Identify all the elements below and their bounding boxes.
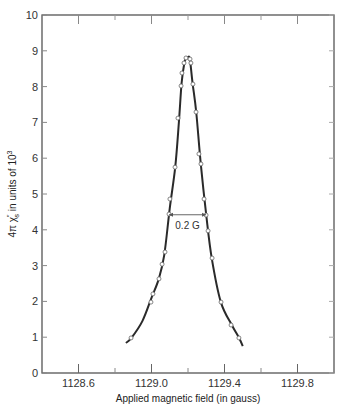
data-point	[149, 300, 153, 304]
data-point	[229, 323, 233, 327]
axes	[42, 15, 334, 373]
y-ticks: 012345678910	[26, 9, 334, 379]
data-point	[189, 61, 193, 65]
data-point	[202, 197, 206, 201]
data-point	[237, 336, 241, 340]
data-point	[129, 336, 133, 340]
y-axis-label-prefix: 4π χ	[7, 216, 18, 237]
x-tick-label: 1129.4	[208, 377, 241, 389]
y-tick-label: 10	[26, 9, 38, 21]
data-point	[157, 277, 161, 281]
data-point	[176, 116, 180, 120]
x-tick-label: 1129.8	[281, 377, 314, 389]
data-point	[219, 300, 223, 304]
resonance-curve	[126, 57, 243, 347]
y-tick-label: 5	[32, 188, 38, 200]
data-point	[173, 165, 177, 169]
data-point	[191, 82, 195, 86]
y-tick-label: 8	[32, 81, 38, 93]
data-point	[163, 250, 167, 254]
data-point	[199, 162, 203, 166]
data-point	[188, 57, 192, 61]
y-axis-label: 4π χ″s in units of 103	[6, 150, 20, 237]
data-point	[206, 229, 210, 233]
y-tick-label: 3	[32, 260, 38, 272]
y-axis-label-suffix: in units of 10	[7, 154, 18, 214]
y-tick-label: 6	[32, 152, 38, 164]
data-point	[210, 256, 214, 260]
y-tick-label: 4	[32, 224, 38, 236]
data-point	[184, 56, 188, 60]
y-tick-label: 1	[32, 331, 38, 343]
data-point	[182, 61, 186, 65]
data-point	[179, 84, 183, 88]
x-tick-label: 1128.6	[62, 377, 95, 389]
resonance-chart: 1128.61129.01129.41129.8 012345678910 0.…	[0, 0, 345, 410]
points-layer	[129, 56, 241, 340]
x-ticks: 1128.61129.01129.41129.8	[62, 15, 314, 389]
x-axis-label: Applied magnetic field (in gauss)	[116, 393, 261, 404]
curve-layer	[126, 57, 243, 347]
data-point	[180, 71, 184, 75]
data-point	[151, 292, 155, 296]
x-tick-label: 1129.0	[135, 377, 168, 389]
y-tick-label: 0	[32, 367, 38, 379]
y-tick-label: 9	[32, 45, 38, 57]
data-point	[197, 152, 201, 156]
data-point	[160, 262, 164, 266]
y-tick-label: 2	[32, 295, 38, 307]
data-point	[194, 110, 198, 114]
y-tick-label: 7	[32, 116, 38, 128]
data-point	[168, 197, 172, 201]
y-axis-label-exp: 3	[6, 150, 13, 154]
annotation-layer: 0.2 G	[169, 213, 206, 231]
plot-frame	[42, 15, 334, 373]
width-label: 0.2 G	[175, 220, 200, 231]
